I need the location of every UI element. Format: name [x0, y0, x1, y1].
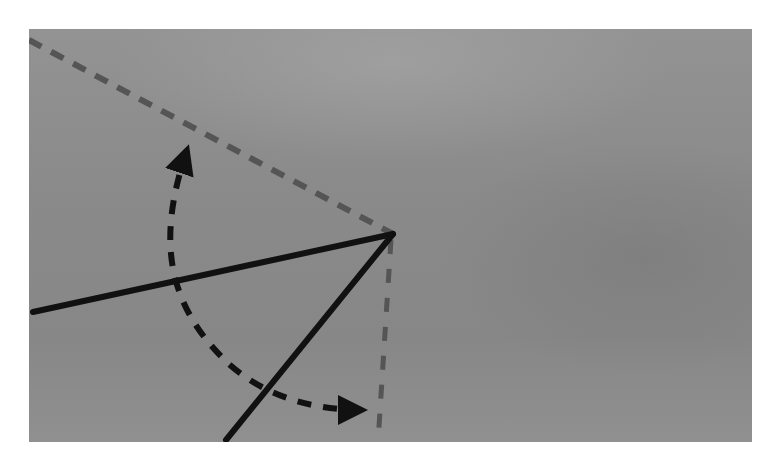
diagram-canvas — [0, 0, 773, 458]
curved-arrow — [170, 150, 362, 410]
reference-line-vertical — [378, 240, 391, 442]
vertex-point — [393, 234, 394, 235]
diagram-overlay — [0, 0, 773, 458]
reference-line-upper — [29, 40, 393, 234]
